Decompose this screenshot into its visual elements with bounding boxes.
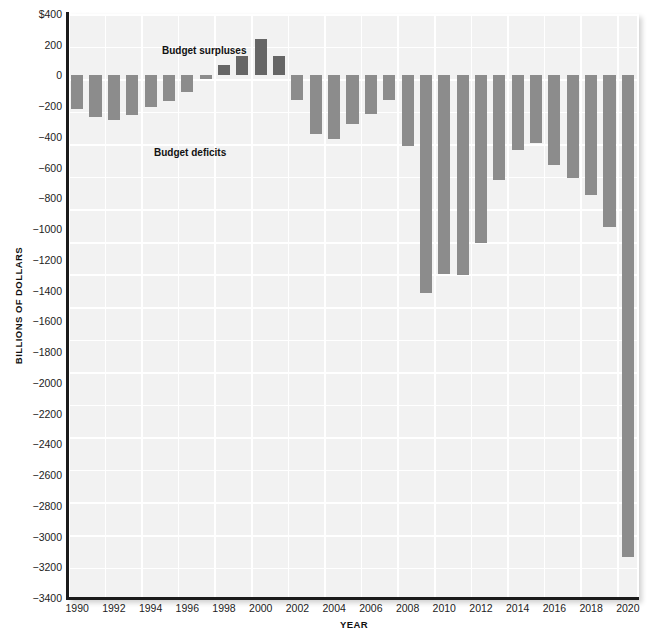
y-tick-label: $400 (2, 9, 62, 20)
x-tick-label: 2016 (543, 603, 566, 614)
y-tick-label: −600 (2, 162, 62, 173)
bar-2006 (365, 75, 377, 113)
y-tick-label: 200 (2, 39, 62, 50)
bar-2004 (328, 75, 340, 138)
bar-2007 (383, 75, 395, 100)
x-axis-label: YEAR (68, 619, 640, 630)
bar-2011 (457, 75, 469, 275)
y-axis-line (66, 12, 69, 600)
y-tick-label: −3400 (2, 593, 62, 604)
bar-2010 (438, 75, 450, 274)
y-tick-label: −2400 (2, 439, 62, 450)
x-tick-label: 2004 (322, 603, 345, 614)
x-tick-label: 2020 (616, 603, 639, 614)
y-tick-label: −1600 (2, 316, 62, 327)
bar-1996 (181, 75, 193, 91)
y-tick-label: −1400 (2, 285, 62, 296)
bar-2003 (310, 75, 322, 133)
y-tick-label: −1000 (2, 224, 62, 235)
bar-2009 (420, 75, 432, 292)
y-tick-label: −800 (2, 193, 62, 204)
y-axis-ticks: $4002000−200−400−600−800−1000−1200−1400−… (0, 0, 62, 632)
x-tick-label: 2002 (286, 603, 309, 614)
bar-1993 (126, 75, 138, 114)
plot-area: Budget surpluses Budget deficits (68, 14, 637, 598)
bar-2012 (475, 75, 487, 242)
x-axis-line (66, 597, 639, 600)
y-tick-label: −3200 (2, 562, 62, 573)
x-tick-label: 1992 (102, 603, 125, 614)
x-tick-label: 1994 (139, 603, 162, 614)
bar-2018 (585, 75, 597, 195)
bar-2014 (512, 75, 524, 150)
bar-1995 (163, 75, 175, 100)
bar-2008 (402, 75, 414, 146)
bar-1998 (218, 65, 230, 76)
bar-2019 (603, 75, 615, 226)
x-tick-label: 1996 (176, 603, 199, 614)
bar-2015 (530, 75, 542, 142)
y-axis-label: BILLIONS OF DOLLARS (13, 216, 24, 396)
y-tick-label: 0 (2, 70, 62, 81)
x-axis-ticks: 1990199219941996199820002002200420062008… (68, 603, 640, 619)
annotation-budget-surpluses: Budget surpluses (162, 45, 246, 56)
x-tick-label: 2012 (469, 603, 492, 614)
bar-2016 (548, 75, 560, 165)
y-tick-label: −2800 (2, 501, 62, 512)
bar-1997 (200, 75, 212, 78)
x-tick-label: 2000 (249, 603, 272, 614)
bar-2002 (291, 75, 303, 99)
x-tick-label: 2018 (579, 603, 602, 614)
bar-1991 (89, 75, 101, 116)
y-tick-label: −2200 (2, 408, 62, 419)
y-tick-label: −200 (2, 101, 62, 112)
bar-2005 (346, 75, 358, 124)
budget-deficit-chart: Budget surpluses Budget deficits $400200… (0, 0, 655, 632)
x-tick-label: 2008 (396, 603, 419, 614)
annotation-budget-deficits: Budget deficits (154, 147, 226, 158)
bar-2017 (567, 75, 579, 177)
bar-1992 (108, 75, 120, 120)
y-tick-label: −1800 (2, 347, 62, 358)
bar-1994 (145, 75, 157, 106)
bar-1990 (71, 75, 83, 109)
bar-2013 (493, 75, 505, 180)
y-tick-label: −400 (2, 132, 62, 143)
y-tick-label: −2600 (2, 470, 62, 481)
x-tick-label: 2006 (359, 603, 382, 614)
x-tick-label: 1990 (65, 603, 88, 614)
x-tick-label: 1998 (212, 603, 235, 614)
y-tick-label: −1200 (2, 255, 62, 266)
bar-2020 (622, 75, 634, 556)
bar-2000 (255, 39, 267, 75)
bar-2001 (273, 56, 285, 76)
bar-1999 (236, 56, 248, 75)
x-tick-label: 2014 (506, 603, 529, 614)
x-tick-label: 2010 (433, 603, 456, 614)
y-tick-label: −2000 (2, 378, 62, 389)
y-tick-label: −3000 (2, 531, 62, 542)
